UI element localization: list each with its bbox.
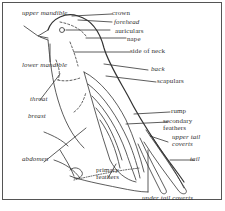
label-auriculars: auriculars (115, 28, 144, 35)
label-rump: rump (171, 108, 186, 115)
label-secondary-feathers: secondary feathers (163, 118, 205, 132)
label-forehead: forehead (114, 19, 139, 26)
label-upper-mandible: upper mandible (22, 10, 68, 17)
label-under-tail-coverts: under tail coverts (142, 195, 193, 202)
label-tail: tail (190, 156, 200, 163)
label-scapulars: scapulars (157, 78, 184, 85)
label-lower-mandible: lower mandible (22, 62, 67, 69)
label-side-of-neck: side of neck (130, 48, 165, 55)
label-nape: nape (127, 36, 141, 43)
label-upper-tail-coverts: upper tail coverts (172, 134, 210, 148)
label-breast: breast (28, 113, 46, 120)
label-back: back (151, 66, 165, 73)
label-throat: throat (30, 96, 47, 103)
label-crown: crown (112, 10, 130, 17)
label-primary-feathers: primary feathers (96, 167, 122, 181)
label-abdomen: abdomen (22, 156, 48, 163)
